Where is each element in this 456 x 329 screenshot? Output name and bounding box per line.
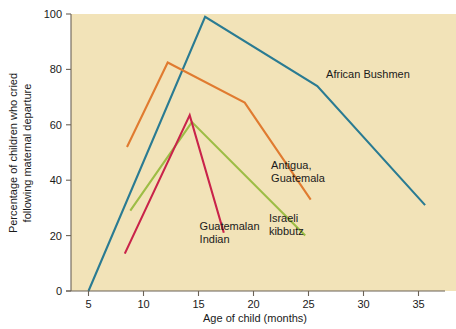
- chart-figure: 5101520253035020406080100 African Bushme…: [0, 0, 456, 329]
- y-tick-label-20: 20: [50, 230, 62, 242]
- x-tick-label-20: 20: [247, 298, 259, 310]
- x-tick-label-35: 35: [412, 298, 424, 310]
- y-tick-label-0: 0: [56, 285, 62, 297]
- series-label-antigua-guatemala-line2: Guatemala: [271, 172, 326, 184]
- series-label-israeli-kibbutz-line1: Israeli: [269, 212, 298, 224]
- x-tick-label-5: 5: [85, 298, 91, 310]
- y-axis-title-line2: following maternal departure: [21, 84, 33, 223]
- line-chart: 5101520253035020406080100 African Bushme…: [0, 0, 456, 329]
- series-label-guatemalan-indian-line2: Indian: [200, 233, 230, 245]
- y-axis-title-line1: Percentage of children who cried: [7, 73, 19, 233]
- y-tick-label-80: 80: [50, 63, 62, 75]
- x-tick-label-15: 15: [192, 298, 204, 310]
- x-tick-label-30: 30: [357, 298, 369, 310]
- y-tick-label-60: 60: [50, 119, 62, 131]
- y-tick-label-40: 40: [50, 174, 62, 186]
- x-tick-label-25: 25: [302, 298, 314, 310]
- x-tick-label-10: 10: [137, 298, 149, 310]
- series-label-african-bushmen: African Bushmen: [326, 68, 410, 80]
- series-label-israeli-kibbutz-line2: kibbutz: [269, 225, 304, 237]
- series-label-guatemalan-indian-line1: Guatemalan: [200, 220, 260, 232]
- plot-background: [71, 14, 456, 291]
- series-label-antigua-guatemala-line1: Antigua,: [271, 159, 311, 171]
- x-axis-title: Age of child (months): [203, 312, 307, 324]
- y-tick-label-100: 100: [44, 8, 62, 20]
